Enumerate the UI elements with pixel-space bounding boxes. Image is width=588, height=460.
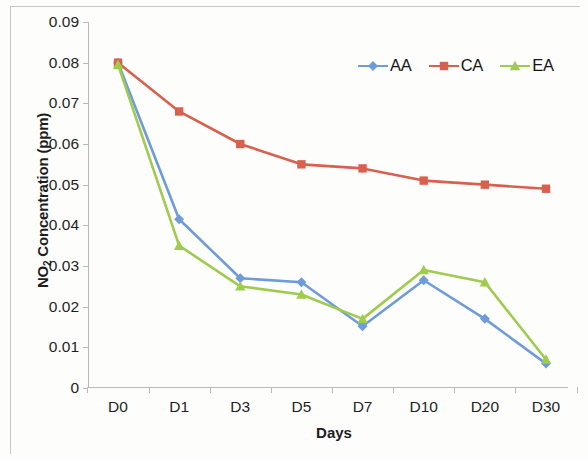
data-point-marker bbox=[236, 140, 244, 148]
legend-entry-aa[interactable]: AA bbox=[358, 56, 412, 75]
y-axis-tick-label: 0.02 bbox=[19, 298, 79, 316]
figure-chart: NO2 Concentration (ppm) Days 00.010.020.… bbox=[0, 0, 588, 460]
x-axis-title: Days bbox=[88, 424, 580, 441]
y-axis-tick-label: 0 bbox=[19, 379, 79, 397]
plot-area: 00.010.020.030.040.050.060.070.080.09 D0… bbox=[88, 22, 568, 388]
data-point-marker bbox=[358, 164, 366, 172]
legend-label: AA bbox=[390, 56, 412, 75]
legend-entry-ca[interactable]: CA bbox=[429, 56, 484, 75]
page-frame-left-rule bbox=[10, 6, 11, 454]
legend-marker-diamond-icon bbox=[366, 59, 380, 73]
series-plot bbox=[88, 22, 568, 388]
series-line bbox=[118, 63, 546, 189]
x-axis-tick-label: D1 bbox=[144, 398, 214, 416]
y-axis-tick-label: 0.07 bbox=[19, 94, 79, 112]
y-axis-tick-label: 0.04 bbox=[19, 216, 79, 234]
page-frame-top-rule bbox=[10, 6, 580, 7]
y-axis-tick-label: 0.06 bbox=[19, 135, 79, 153]
y-axis-tick-label: 0.09 bbox=[19, 13, 79, 31]
x-axis-tick-label: D20 bbox=[450, 398, 520, 416]
legend-entry-ea[interactable]: EA bbox=[500, 56, 554, 75]
x-axis-tick-label: D7 bbox=[328, 398, 398, 416]
data-point-marker bbox=[542, 185, 550, 193]
x-axis-tick-label: D5 bbox=[266, 398, 336, 416]
series-ca bbox=[114, 58, 550, 192]
legend-label: CA bbox=[461, 56, 484, 75]
data-point-marker bbox=[297, 160, 305, 168]
series-aa bbox=[113, 58, 551, 369]
chart-legend: AACAEA bbox=[358, 56, 554, 75]
legend-label: EA bbox=[532, 56, 554, 75]
x-axis-tick-label: D30 bbox=[511, 398, 581, 416]
y-axis-tick-label: 0.08 bbox=[19, 54, 79, 72]
data-point-marker bbox=[175, 107, 183, 115]
data-point-marker bbox=[439, 61, 447, 69]
data-point-marker bbox=[481, 180, 489, 188]
x-axis-tick-label: D3 bbox=[205, 398, 275, 416]
legend-marker-square-icon bbox=[437, 59, 451, 73]
legend-key-ca-icon bbox=[429, 58, 459, 74]
y-axis-tick-label: 0.01 bbox=[19, 338, 79, 356]
y-axis-tick-label: 0.03 bbox=[19, 257, 79, 275]
data-point-marker bbox=[420, 176, 428, 184]
y-axis-tick-label: 0.05 bbox=[19, 176, 79, 194]
x-axis-tick bbox=[577, 387, 578, 393]
legend-marker-triangle-icon bbox=[508, 59, 522, 73]
legend-key-ea-icon bbox=[500, 58, 530, 74]
legend-key-aa-icon bbox=[358, 58, 388, 74]
data-point-marker bbox=[368, 61, 378, 71]
data-point-marker bbox=[174, 240, 184, 249]
x-axis-tick-label: D10 bbox=[389, 398, 459, 416]
x-axis-tick-label: D0 bbox=[83, 398, 153, 416]
data-point-marker bbox=[510, 60, 520, 69]
